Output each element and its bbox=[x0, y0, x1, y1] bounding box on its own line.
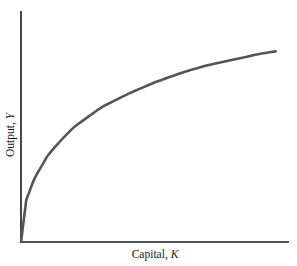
y-axis-label: Output, Y bbox=[4, 111, 17, 157]
y-axis-label-variable: Y bbox=[4, 111, 16, 119]
chart: Output, Y Capital, K bbox=[0, 0, 297, 266]
y-axis-label-text: Output, bbox=[4, 119, 17, 157]
x-axis-label-variable: K bbox=[170, 248, 180, 260]
production-function-curve bbox=[21, 51, 276, 242]
x-axis-label: Capital, K bbox=[132, 248, 180, 261]
x-axis-label-text: Capital, bbox=[132, 248, 171, 261]
